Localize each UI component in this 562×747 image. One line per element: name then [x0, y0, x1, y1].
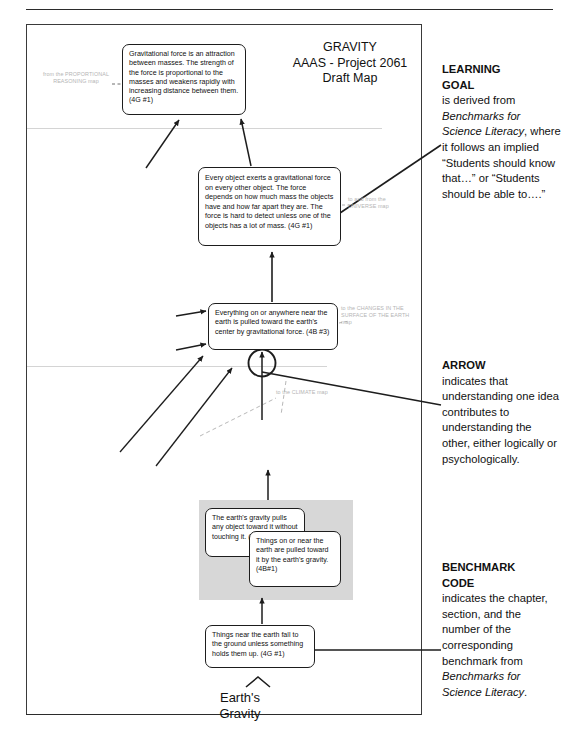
legend-arrow-heading: ARROW — [442, 359, 486, 371]
page-top-rule — [26, 9, 553, 10]
map-title-line-3: Draft Map — [270, 71, 430, 87]
offmap-label-climate: to the CLIMATE map — [276, 389, 334, 396]
legend-learning-goal-heading-2: GOAL — [442, 79, 474, 91]
map-bottom-caption: Earth's Gravity — [180, 690, 300, 722]
offmap-label-proportional-reasoning: from the PROPORTIONAL REASONING map — [40, 71, 112, 85]
concept-node-every-object[interactable]: Every object exerts a gravitational forc… — [198, 167, 341, 246]
legend-learning-goal: LEARNING GOAL is derived from Benchmarks… — [442, 62, 562, 202]
map-bottom-caption-line-2: Gravity — [180, 706, 300, 722]
concept-node-everything-near-earth[interactable]: Everything on or anywhere near the earth… — [208, 303, 338, 350]
legend-benchmark-heading-1: BENCHMARK — [442, 561, 515, 573]
offmap-label-universe: to and from the UNIVERSE map — [348, 196, 414, 210]
legend-benchmark-body-b: . — [524, 686, 527, 698]
offmap-label-changes-surface-earth: to the CHANGES IN THE SURFACE OF THE EAR… — [341, 305, 415, 326]
map-bottom-caption-line-1: Earth's — [180, 690, 300, 706]
legend-arrow-body: indicates that understanding one idea co… — [442, 375, 559, 465]
legend-learning-goal-heading-1: LEARNING — [442, 63, 500, 75]
legend-benchmark-code: BENCHMARK CODE indicates the chapter, se… — [442, 560, 562, 700]
legend-benchmark-italic: Benchmarks for Science Literacy — [442, 670, 524, 698]
legend-arrow: ARROW indicates that understanding one i… — [442, 358, 562, 467]
concept-node-gravitational-force[interactable]: Gravitational force is an attraction bet… — [122, 44, 246, 115]
map-title-line-2: AAAS - Project 2061 — [270, 56, 430, 72]
legend-benchmark-heading-2: CODE — [442, 577, 474, 589]
legend-benchmark-body-a: indicates the chapter, section, and the … — [442, 592, 548, 666]
concept-node-things-near-fall[interactable]: Things near the earth fall to the ground… — [205, 625, 315, 668]
faint-rule-lower — [27, 366, 327, 367]
map-title-line-1: GRAVITY — [270, 40, 430, 56]
legend-learning-goal-italic: Benchmarks for Science Literacy — [442, 110, 524, 138]
faint-rule-upper — [27, 128, 382, 129]
legend-learning-goal-body-a: is derived from — [442, 94, 515, 106]
map-title: GRAVITY AAAS - Project 2061 Draft Map — [270, 40, 430, 87]
concept-node-things-on-or-near[interactable]: Things on or near the earth are pulled t… — [249, 531, 341, 587]
